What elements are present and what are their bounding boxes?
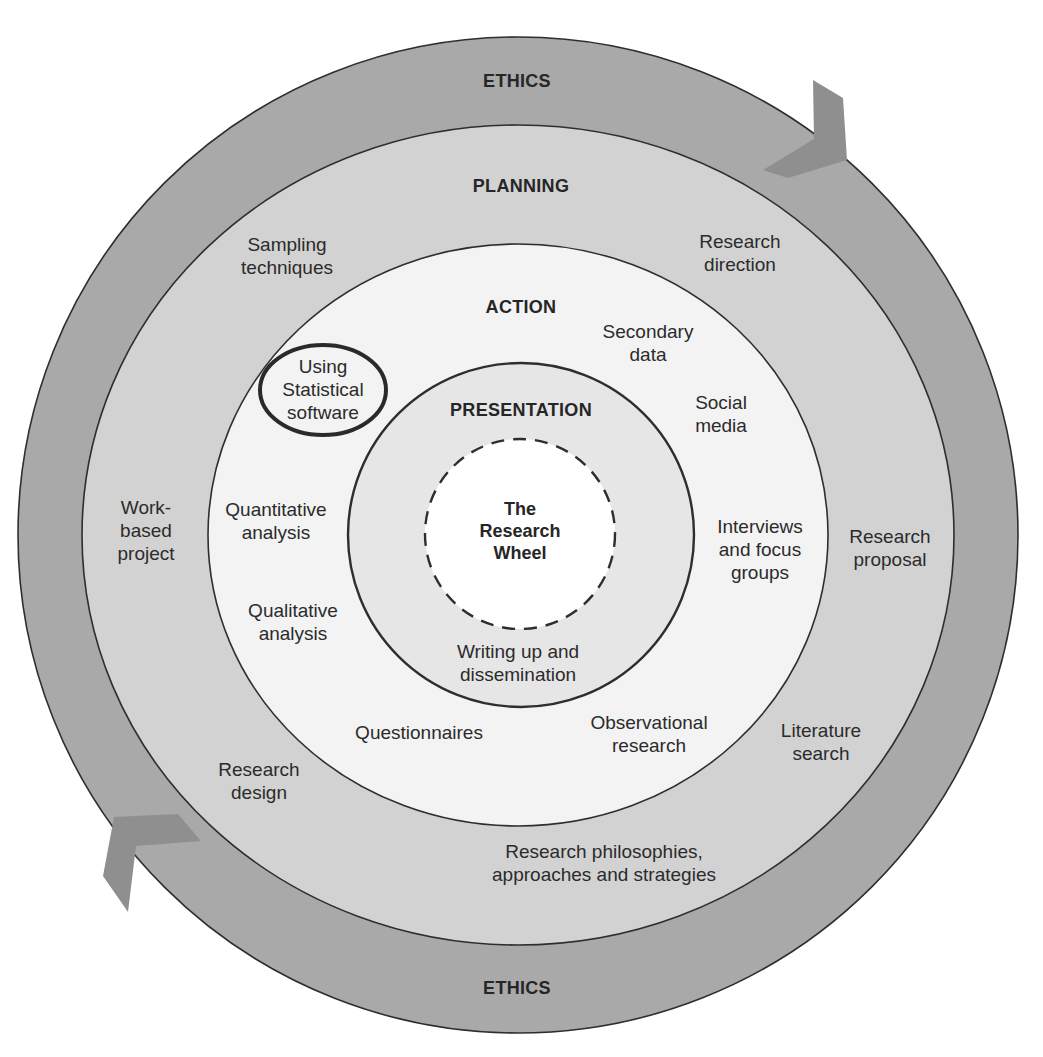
ethics-title-top: ETHICS	[483, 70, 551, 93]
action-item-interviews-focus-groups: Interviews and focus groups	[717, 515, 803, 584]
action-item-quantitative-analysis: Quantitative analysis	[225, 498, 326, 544]
presentation-item-writing-up: Writing up and dissemination	[457, 640, 579, 686]
action-item-questionnaires: Questionnaires	[355, 721, 483, 744]
planning-item-research-proposal: Research proposal	[849, 525, 930, 571]
action-item-social-media: Social media	[695, 391, 747, 437]
presentation-title: PRESENTATION	[450, 399, 592, 422]
planning-item-sampling-techniques: Sampling techniques	[241, 233, 333, 279]
action-item-using-statistical-software: Using Statistical software	[282, 355, 363, 424]
planning-item-research-direction: Research direction	[699, 230, 780, 276]
action-item-secondary-data: Secondary data	[603, 320, 694, 366]
action-item-observational-research: Observational research	[590, 711, 707, 757]
action-title: ACTION	[486, 296, 557, 319]
center-label: The Research Wheel	[479, 498, 560, 564]
planning-item-research-design: Research design	[218, 758, 299, 804]
planning-item-research-philosophies: Research philosophies, approaches and st…	[492, 840, 716, 886]
planning-item-work-based-project: Work- based project	[117, 496, 174, 565]
planning-item-literature-search: Literature search	[781, 719, 861, 765]
planning-title: PLANNING	[473, 175, 569, 198]
ethics-title-bottom: ETHICS	[483, 977, 551, 1000]
action-item-qualitative-analysis: Qualitative analysis	[248, 599, 338, 645]
